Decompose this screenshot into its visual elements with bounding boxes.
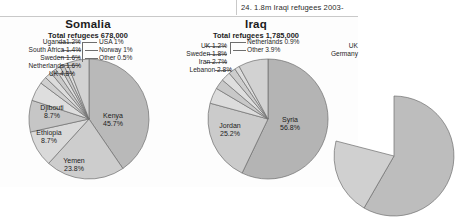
caption-text: 24. 1.8m Iraqi refugees 2003-: [241, 3, 344, 12]
pie-label-other: Other 0.5%: [99, 54, 132, 62]
panel-third-cropped: UK Germany: [336, 16, 396, 187]
caption-bar: 24. 1.8m Iraqi refugees 2003-: [0, 0, 358, 17]
leader-stub-right-iraq: [230, 42, 231, 54]
pie-label-uk-third: UK: [349, 42, 358, 50]
pie-label-other-iraq: Other 3.9%: [247, 46, 280, 54]
pie-slice-label-ethiopia: Ethiopia 8.7%: [36, 129, 61, 145]
pie-chart-iraq: [206, 57, 330, 181]
panel-subtitle-somalia: Total refugees 678,000: [0, 31, 176, 40]
pie-svg-iraq: [206, 57, 330, 181]
pie-slice-label-kenya: Kenya 45.7%: [103, 112, 123, 128]
pie-chart-third: [332, 94, 456, 218]
panel-title-iraq: Iraq: [176, 18, 336, 30]
pie-label-iran: Iran 2.7%: [199, 58, 227, 66]
pie-label-south-africa: South Africa 1.4%: [29, 46, 81, 54]
leader-line-netherlands-iraq: [230, 42, 246, 43]
pie-label-uk: UK 4.8%: [49, 70, 75, 78]
leader-line-other: [85, 58, 98, 59]
panel-iraq: Iraq Total refugees 1,785,000: [176, 16, 336, 187]
pie-label-germany-third: Germany: [331, 50, 358, 58]
panel-somalia: Somalia Total refugees 678,000: [0, 16, 176, 187]
leader-line-usa: [82, 42, 97, 43]
pie-label-sweden-iraq: Sweden 1.8%: [186, 50, 227, 58]
panel-title-somalia: Somalia: [0, 18, 176, 30]
pie-label-sweden: Sweden 1.6%: [40, 54, 81, 62]
pie-label-lebanon: Lebanon 2.8%: [189, 66, 232, 74]
pie-label-netherlands-iraq: Netherlands 0.9%: [247, 38, 299, 46]
pie-label-netherlands: Netherlands 1.6%: [29, 62, 81, 70]
leader-line-other-iraq: [233, 50, 246, 51]
pie-slice-label-syria: Syria 56.8%: [280, 116, 300, 132]
pie-label-norway: Norway 1%: [99, 46, 133, 54]
pie-slice-label-yemen: Yemen 23.8%: [63, 157, 85, 173]
pie-label-uk-iraq: UK 1.2%: [201, 42, 227, 50]
pie-label-usa: USA 1%: [99, 38, 124, 46]
caption-box: 24. 1.8m Iraqi refugees 2003-: [236, 0, 348, 15]
pie-label-uganda: Uganda1.2%: [43, 38, 81, 46]
pie-slice-label-jordan: Jordan 25.2%: [219, 122, 240, 138]
leader-line-norway: [85, 50, 98, 51]
leader-stub-right: [82, 42, 83, 62]
pie-slice-label-djibouti: Djibouti 8.7%: [40, 104, 63, 120]
pie-svg-third: [332, 94, 456, 218]
